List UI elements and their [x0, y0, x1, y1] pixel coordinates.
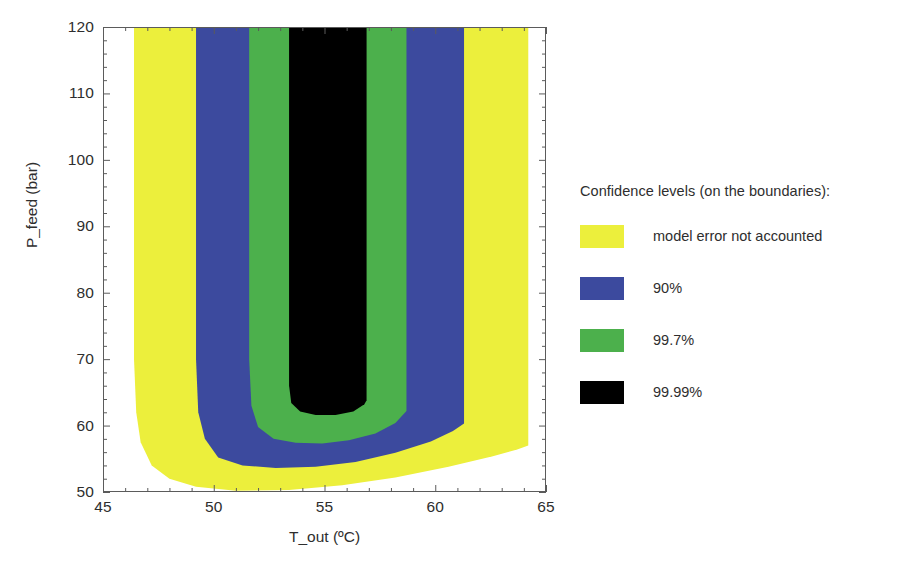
contour-plot-figure: 1201101009080706050 4550556065 P_feed (b…	[0, 0, 923, 574]
legend-item-label: 99.99%	[653, 384, 702, 400]
y-tick-label-90: 90	[77, 217, 94, 235]
legend-title: Confidence levels (on the boundaries):	[580, 183, 910, 199]
legend-swatch-black	[580, 381, 624, 404]
y-tick-label-110: 110	[69, 84, 94, 102]
legend-swatch-blue	[580, 277, 624, 300]
y-tick-label-70: 70	[77, 350, 94, 368]
legend-swatch-green	[580, 329, 624, 352]
y-axis-title: P_feed (bar)	[23, 110, 41, 300]
region-band-4	[289, 27, 367, 415]
legend-item: model error not accounted	[580, 224, 910, 248]
confidence-regions-svg	[103, 27, 546, 492]
legend-item: 99.7%	[580, 328, 910, 352]
legend-items: model error not accounted90%99.7%99.99%	[580, 224, 910, 404]
y-tick-label-100: 100	[68, 151, 94, 169]
legend-item-label: 90%	[653, 280, 682, 296]
y-tick-label-60: 60	[77, 417, 94, 435]
legend-swatch-yellow	[580, 225, 624, 248]
legend-item: 99.99%	[580, 380, 910, 404]
y-tick-label-80: 80	[77, 284, 94, 302]
legend-item-label: 99.7%	[653, 332, 694, 348]
plot-area	[103, 27, 546, 492]
y-axis-tick-labels: 1201101009080706050	[0, 0, 94, 574]
x-tick-label-45: 45	[94, 498, 111, 516]
x-tick-label-55: 55	[316, 498, 333, 516]
x-tick-label-60: 60	[427, 498, 444, 516]
y-tick-label-50: 50	[77, 483, 94, 501]
legend-item-label: model error not accounted	[653, 228, 822, 244]
legend-item: 90%	[580, 276, 910, 300]
regions-group	[134, 27, 528, 491]
x-tick-label-65: 65	[537, 498, 554, 516]
legend: Confidence levels (on the boundaries): m…	[580, 183, 910, 404]
x-axis-title: T_out (ºC)	[103, 528, 546, 546]
x-tick-label-50: 50	[205, 498, 222, 516]
y-tick-label-120: 120	[68, 18, 94, 36]
